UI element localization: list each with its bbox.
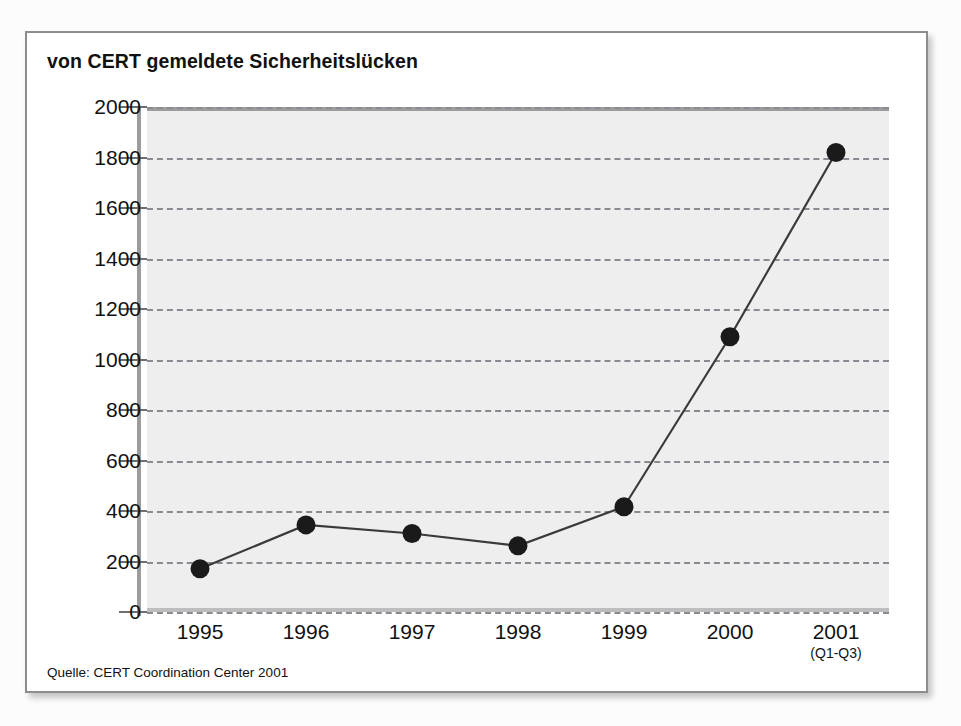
y-tick-label: 1200: [21, 297, 141, 321]
gridline: [147, 612, 889, 614]
data-point-marker: [403, 524, 422, 543]
series-line: [200, 152, 836, 568]
y-tick-label: 600: [21, 449, 141, 473]
y-tick-label: 200: [21, 550, 141, 574]
chart-title: von CERT gemeldete Sicherheitslücken: [47, 50, 418, 73]
x-tick-label: 2001: [761, 619, 911, 645]
data-point-marker: [827, 143, 846, 162]
y-tick-label: 2000: [21, 95, 141, 119]
line-series: [147, 107, 889, 612]
x-tick: 2001(Q1-Q3): [761, 619, 911, 661]
y-tick-label: 400: [21, 499, 141, 523]
data-point-marker: [191, 559, 210, 578]
plot-wrapper: 0200400600800100012001400160018002000 19…: [147, 107, 889, 612]
data-point-marker: [721, 327, 740, 346]
y-tick-label: 800: [21, 398, 141, 422]
data-point-marker: [615, 497, 634, 516]
data-point-marker: [509, 536, 528, 555]
y-tick-label: 1800: [21, 146, 141, 170]
figure-card: von CERT gemeldete Sicherheitslücken 020…: [25, 31, 928, 693]
y-tick-label: 1400: [21, 247, 141, 271]
y-tick-label: 1600: [21, 196, 141, 220]
x-tick-sublabel: (Q1-Q3): [761, 645, 911, 661]
source-note: Quelle: CERT Coordination Center 2001: [47, 665, 288, 680]
data-point-marker: [297, 515, 316, 534]
y-tick-label: 0: [21, 600, 141, 624]
y-tick-label: 1000: [21, 348, 141, 372]
